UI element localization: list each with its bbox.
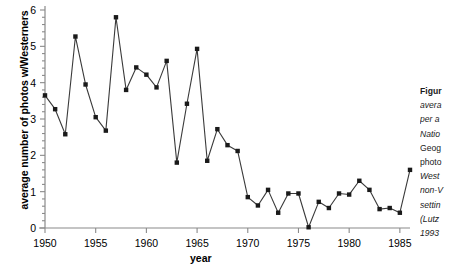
x-tick-label: 1955 [84,237,108,249]
data-point-marker [215,127,219,131]
data-point-marker [317,200,321,204]
data-point-marker [398,211,402,215]
data-point-marker [408,168,412,172]
x-tick-label: 1960 [135,237,159,249]
y-axis: 0123456 [30,4,45,234]
caption-line: Figur [420,84,455,98]
data-point-marker [144,72,148,76]
caption-line: avera [420,98,455,112]
data-point-marker [104,128,108,132]
data-point-marker [246,195,250,199]
x-tick-label: 1950 [33,237,57,249]
data-point-marker [83,82,87,86]
caption-line: per a [420,112,455,126]
data-point-marker [347,192,351,196]
x-tick-label: 1970 [236,237,260,249]
figure-caption: Figuraveraper aNatioGeogphotoWestnon-Vse… [420,84,455,240]
x-axis-title: year [190,252,212,264]
data-point-marker [93,115,97,119]
data-point-marker [306,225,310,229]
data-point-marker [124,88,128,92]
x-tick-label: 1980 [337,237,361,249]
data-point-marker [175,160,179,164]
data-point-marker [286,191,290,195]
y-tick-label: 2 [30,149,36,161]
data-point-marker [225,143,229,147]
data-point-marker [164,59,168,63]
y-tick-label: 0 [30,222,36,234]
caption-line: West [420,169,455,183]
x-tick-label: 1965 [185,237,209,249]
series-line [45,17,410,227]
x-tick-label: 1985 [388,237,412,249]
data-point-marker [377,207,381,211]
figure-root: 0123456 19501955196019651970197519801985… [0,0,455,271]
x-tick-label: 1975 [287,237,311,249]
data-point-marker [367,188,371,192]
x-axis: 19501955196019651970197519801985 [33,228,411,249]
caption-line: settin [420,198,455,212]
y-tick-label: 5 [30,40,36,52]
caption-line: photo [420,155,455,169]
data-point-marker [266,188,270,192]
data-point-marker [114,15,118,19]
caption-line: non-V [420,183,455,197]
data-point-marker [185,102,189,106]
data-point-marker [63,132,67,136]
data-series [45,17,410,227]
data-point-marker [154,85,158,89]
y-tick-label: 6 [30,4,36,16]
y-tick-label: 1 [30,186,36,198]
data-point-marker [205,159,209,163]
y-axis-title: average number of photos w/Westerners [18,10,30,210]
data-point-marker [53,107,57,111]
data-point-marker [327,206,331,210]
data-point-marker [276,211,280,215]
y-tick-label: 4 [30,77,36,89]
data-point-marker [134,65,138,69]
data-point-marker [73,34,77,38]
y-tick-label: 3 [30,113,36,125]
data-point-marker [296,191,300,195]
data-point-marker [256,203,260,207]
data-point-marker [43,93,47,97]
caption-line: Geog [420,141,455,155]
data-point-marker [388,206,392,210]
caption-line: 1993 [420,226,455,240]
line-chart: 0123456 19501955196019651970197519801985… [0,0,418,271]
chart-plot-svg: 0123456 19501955196019651970197519801985 [0,0,418,271]
data-markers [43,15,412,229]
data-point-marker [357,179,361,183]
caption-line: (Lutz [420,212,455,226]
caption-line: Natio [420,127,455,141]
data-point-marker [235,149,239,153]
data-point-marker [195,47,199,51]
data-point-marker [337,191,341,195]
